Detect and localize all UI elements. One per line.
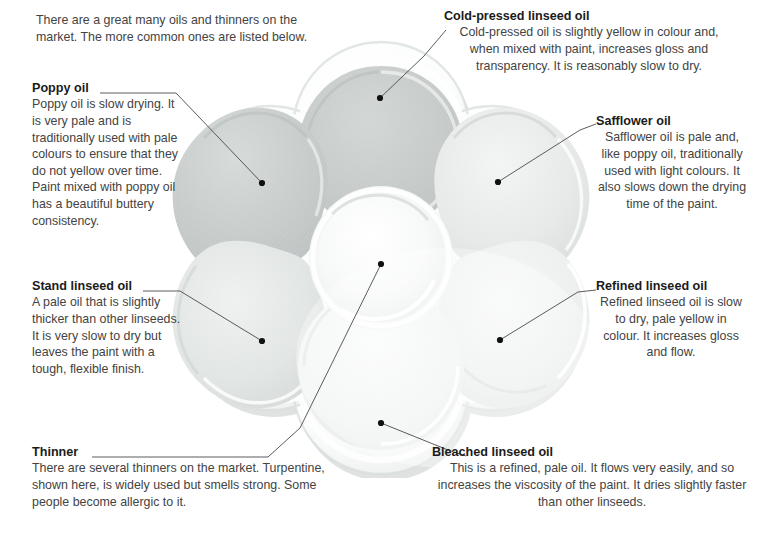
leader-dot-cold	[377, 95, 383, 101]
petal-well-upper-left	[173, 108, 328, 276]
annotation-heading-thinner: Thinner	[32, 444, 342, 460]
annotation-heading-stand-linseed-oil: Stand linseed oil	[32, 278, 184, 294]
petal-well-bottom	[298, 278, 464, 450]
center-well	[309, 186, 453, 330]
annotation-body-bleached-linseed-oil: This is a refined, pale oil. It flows ve…	[432, 460, 752, 510]
figure-page: There are a great many oils and thinners…	[0, 0, 761, 536]
annotation-safflower-oil: Safflower oil Safflower oil is pale and,…	[596, 113, 748, 212]
annotation-heading-safflower-oil: Safflower oil	[596, 113, 748, 129]
petal-well-lower-left	[173, 241, 328, 409]
annotation-heading-poppy-oil: Poppy oil	[32, 80, 182, 96]
leader-dot-bleached	[378, 420, 384, 426]
annotation-poppy-oil: Poppy oil Poppy oil is slow drying. It i…	[32, 80, 182, 229]
annotation-body-poppy-oil: Poppy oil is slow drying. It is very pal…	[32, 96, 182, 229]
annotation-body-refined-linseed-oil: Refined linseed oil is slow to dry, pale…	[596, 294, 746, 360]
petal-well-upper-right	[434, 108, 589, 276]
petal-well-lower-right	[434, 241, 589, 409]
annotation-heading-cold-pressed-linseed-oil: Cold-pressed linseed oil	[444, 8, 734, 24]
annotation-heading-refined-linseed-oil: Refined linseed oil	[596, 278, 746, 294]
petal-well-top	[298, 66, 464, 238]
annotation-body-cold-pressed-linseed-oil: Cold-pressed oil is slightly yellow in c…	[444, 24, 734, 74]
palette-illustration	[146, 38, 616, 478]
annotation-cold-pressed-linseed-oil: Cold-pressed linseed oil Cold-pressed oi…	[444, 8, 734, 74]
leader-line-refined	[500, 290, 596, 340]
leader-dot-safflower	[495, 179, 501, 185]
annotation-thinner: Thinner There are several thinners on th…	[32, 444, 342, 510]
annotation-bleached-linseed-oil: Bleached linseed oil This is a refined, …	[432, 444, 752, 510]
leader-dot-refined	[497, 337, 503, 343]
annotation-body-safflower-oil: Safflower oil is pale and, like poppy oi…	[596, 129, 748, 212]
annotation-heading-bleached-linseed-oil: Bleached linseed oil	[432, 444, 752, 460]
leader-line-safflower	[498, 124, 596, 182]
leader-dot-stand	[259, 338, 265, 344]
leader-line-cold	[380, 30, 446, 98]
annotation-body-thinner: There are several thinners on the market…	[32, 460, 342, 510]
annotation-body-stand-linseed-oil: A pale oil that is slightly thicker than…	[32, 294, 184, 377]
leader-dot-poppy	[259, 180, 265, 186]
leader-dot-thinner	[378, 261, 384, 267]
annotation-stand-linseed-oil: Stand linseed oil A pale oil that is sli…	[32, 278, 184, 377]
intro-paragraph: There are a great many oils and thinners…	[36, 12, 336, 46]
annotation-refined-linseed-oil: Refined linseed oil Refined linseed oil …	[596, 278, 746, 361]
